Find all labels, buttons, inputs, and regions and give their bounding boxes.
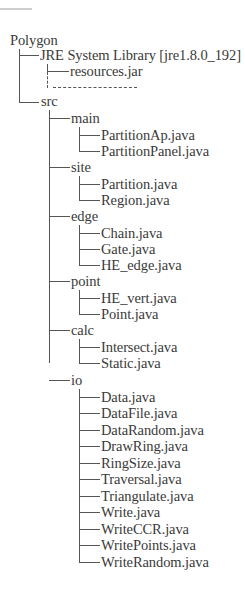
tree-connector — [79, 200, 100, 201]
tree-file[interactable]: DataFile.java — [101, 405, 177, 421]
tree-connector — [79, 363, 100, 364]
tree-file[interactable]: Partition.java — [101, 176, 177, 192]
tree-connector — [79, 233, 100, 234]
tree-connector — [79, 512, 100, 513]
tree-connector — [79, 249, 100, 250]
tree-connector — [79, 529, 100, 530]
tree-ellipsis-dashed — [53, 87, 137, 88]
tree-file[interactable]: WriteCCR.java — [101, 521, 189, 537]
tree-node-resources-jar[interactable]: resources.jar — [70, 63, 142, 79]
tree-file[interactable]: DataRandom.java — [101, 422, 204, 438]
tree-connector — [49, 216, 70, 217]
tree-connector — [79, 225, 80, 265]
tree-file[interactable]: Intersect.java — [101, 339, 177, 355]
tree-connector — [79, 479, 100, 480]
tree-connector — [79, 413, 100, 414]
tree-connector — [79, 127, 80, 151]
tree-connector — [79, 298, 100, 299]
tree-connector-dashed — [47, 72, 48, 88]
tree-file[interactable]: Triangulate.java — [101, 488, 194, 504]
tree-connector — [49, 110, 50, 363]
tree-connector — [19, 55, 39, 56]
tree-file[interactable]: Write.java — [101, 504, 160, 520]
tree-file[interactable]: Chain.java — [101, 225, 162, 241]
tree-node-package-io[interactable]: io — [71, 372, 82, 388]
tree-connector — [79, 339, 80, 363]
tree-file[interactable]: WritePoints.java — [101, 537, 196, 553]
tree-connector — [79, 314, 100, 315]
tree-node-src[interactable]: src — [41, 93, 58, 109]
tree-connector — [79, 562, 100, 563]
tree-file[interactable]: Data.java — [101, 389, 155, 405]
tree-root-polygon[interactable]: Polygon — [10, 32, 58, 48]
tree-connector — [49, 281, 70, 282]
tree-connector — [79, 545, 100, 546]
tree-connector — [79, 135, 100, 136]
tree-connector — [19, 102, 39, 103]
tree-connector — [49, 167, 70, 168]
tree-node-package-point[interactable]: point — [71, 273, 100, 289]
tree-file[interactable]: WriteRandom.java — [101, 554, 209, 570]
tree-file[interactable]: RingSize.java — [101, 455, 181, 471]
tree-connector — [79, 176, 80, 200]
tree-connector — [47, 71, 69, 72]
tree-connector — [79, 347, 100, 348]
tree-connector — [79, 151, 100, 152]
tree-node-jre[interactable]: JRE System Library [jre1.8.0_192] — [40, 47, 241, 63]
tree-connector — [79, 397, 100, 398]
tree-file[interactable]: HE_edge.java — [101, 257, 182, 273]
tree-node-package-main[interactable]: main — [71, 110, 100, 126]
tree-connector — [19, 49, 20, 102]
tree-connector — [79, 446, 100, 447]
tree-file[interactable]: Point.java — [101, 306, 158, 322]
tree-file[interactable]: HE_vert.java — [101, 290, 177, 306]
tree-connector — [79, 496, 100, 497]
tree-file[interactable]: Static.java — [101, 355, 161, 371]
tree-connector — [49, 330, 70, 331]
tree-connector — [79, 290, 80, 314]
tree-file[interactable]: DrawRing.java — [101, 438, 188, 454]
tree-node-package-calc[interactable]: calc — [71, 322, 94, 338]
tree-node-package-site[interactable]: site — [71, 159, 91, 175]
tree-connector — [49, 380, 70, 381]
tree-file[interactable]: Gate.java — [101, 241, 155, 257]
tree-file[interactable]: PartitionPanel.java — [101, 143, 209, 159]
tree-node-package-edge[interactable]: edge — [71, 208, 98, 224]
tree-connector — [79, 184, 100, 185]
tree-connector — [79, 389, 80, 563]
tree-file[interactable]: PartitionAp.java — [101, 127, 195, 143]
tree-connector — [79, 430, 100, 431]
tree-file[interactable]: Traversal.java — [101, 471, 182, 487]
tree-connector — [79, 265, 100, 266]
tree-file[interactable]: Region.java — [101, 192, 170, 208]
tree-connector — [79, 463, 100, 464]
file-tree: Polygon JRE System Library [jre1.8.0_192… — [0, 0, 245, 590]
tree-connector — [49, 118, 70, 119]
